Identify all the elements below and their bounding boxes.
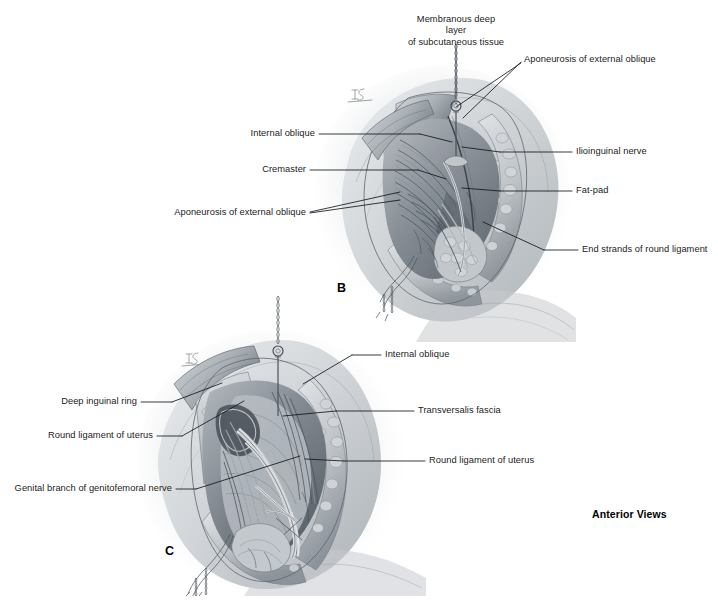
- label-round-ligament-uterus-left: Round ligament of uterus: [20, 430, 153, 441]
- label-genital-branch-genitofemoral-nerve: Genital branch of genitofemoral nerve: [10, 483, 172, 494]
- label-aponeurosis-external-oblique-left: Aponeurosis of external oblique: [110, 207, 306, 218]
- label-internal-oblique-b: Internal oblique: [160, 128, 315, 139]
- label-round-ligament-uterus-right: Round ligament of uterus: [429, 455, 534, 466]
- label-internal-oblique-c: Internal oblique: [385, 349, 449, 360]
- panel-letter-c: C: [165, 544, 174, 558]
- label-cremaster: Cremaster: [160, 164, 306, 175]
- label-deep-inguinal-ring: Deep inguinal ring: [20, 396, 137, 407]
- label-transversalis-fascia: Transversalis fascia: [418, 405, 501, 416]
- label-membranous-line2: of subcutaneous tissue: [408, 37, 504, 47]
- label-fat-pad: Fat-pad: [576, 185, 608, 196]
- label-membranous-deep-layer: Membranous deep layer of subcutaneous ti…: [406, 14, 506, 48]
- figure-page: Membranous deep layer of subcutaneous ti…: [0, 0, 718, 603]
- label-aponeurosis-external-oblique-top: Aponeurosis of external oblique: [524, 54, 656, 65]
- label-ilioinguinal-nerve: Ilioinguinal nerve: [576, 146, 647, 157]
- label-end-strands-round-ligament: End strands of round ligament: [582, 244, 707, 255]
- panel-letter-b: B: [337, 281, 346, 295]
- anterior-views-label: Anterior Views: [592, 508, 667, 520]
- label-membranous-line1: Membranous deep layer: [417, 14, 495, 35]
